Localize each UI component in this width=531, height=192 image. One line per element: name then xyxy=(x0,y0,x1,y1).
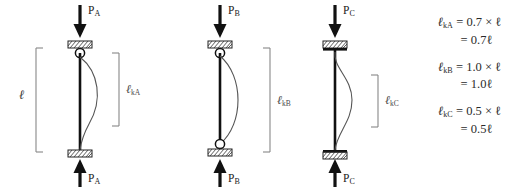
equation-kb-line2: = 1.0ℓ xyxy=(408,76,531,94)
equation-group-ka: ℓkA = 0.7 × ℓ = 0.7ℓ xyxy=(408,14,531,50)
equation-group-kb: ℓkB = 1.0 × ℓ = 1.0ℓ xyxy=(408,59,531,95)
load-arrow-top-b xyxy=(214,5,227,38)
buckled-shape-a xyxy=(80,57,97,150)
load-label-bottom-b: PB xyxy=(228,172,240,184)
equation-kc-line2: = 0.5ℓ xyxy=(408,121,531,139)
support-bottom-c xyxy=(323,150,347,159)
load-label-top-a: PA xyxy=(88,4,101,16)
bracket-effective-length-c xyxy=(371,75,378,127)
support-top-c xyxy=(323,41,347,51)
load-arrow-top-a xyxy=(74,5,87,38)
equation-ka-line2: = 0.7ℓ xyxy=(408,32,531,50)
support-bottom-b xyxy=(208,139,232,156)
buckled-shape-c xyxy=(335,52,352,150)
load-label-top-b: PB xyxy=(228,4,240,16)
equations-panel: ℓkA = 0.7 × ℓ = 0.7ℓ ℓkB = 1.0 × ℓ = 1.0… xyxy=(408,14,531,148)
effective-length-label-c: ℓkC xyxy=(385,93,399,108)
bracket-effective-length-b xyxy=(263,48,270,152)
load-label-top-c: PC xyxy=(343,4,355,16)
column-b-graphic xyxy=(160,0,320,192)
equation-ka-line1: ℓkA = 0.7 × ℓ xyxy=(408,14,531,32)
support-bottom-a xyxy=(68,150,92,157)
buckling-diagram: PA PA ℓ ℓkA xyxy=(0,0,531,192)
effective-length-label-a: ℓkA xyxy=(126,82,140,97)
equation-kc-line1: ℓkC = 0.5 × ℓ xyxy=(408,103,531,121)
load-arrow-bottom-a xyxy=(74,159,87,187)
load-arrow-top-c xyxy=(329,5,342,38)
span-label: ℓ xyxy=(19,87,24,103)
column-case-a: PA PA ℓ ℓkA xyxy=(0,0,160,192)
bracket-length-a xyxy=(36,48,43,152)
load-arrow-bottom-c xyxy=(329,159,342,187)
load-arrow-bottom-b xyxy=(214,159,227,187)
effective-length-label-b: ℓkB xyxy=(277,93,291,108)
equation-kb-line1: ℓkB = 1.0 × ℓ xyxy=(408,59,531,77)
column-case-b: PB PB ℓkB xyxy=(160,0,320,192)
load-label-bottom-a: PA xyxy=(88,172,101,184)
buckled-shape-b xyxy=(220,56,238,144)
bracket-effective-length-a xyxy=(112,53,119,126)
load-label-bottom-c: PC xyxy=(343,172,355,184)
equation-group-kc: ℓkC = 0.5 × ℓ = 0.5ℓ xyxy=(408,103,531,139)
